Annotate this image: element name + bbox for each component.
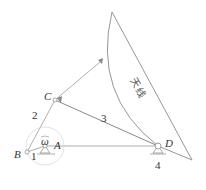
label-b: B xyxy=(14,148,21,160)
label-c: C xyxy=(44,90,52,102)
four-bar-antenna-diagram: C B A D ω 2 3 1 4 天 线 xyxy=(0,0,206,190)
label-link-3: 3 xyxy=(101,112,107,124)
label-a: A xyxy=(53,139,61,151)
joint-c xyxy=(53,98,57,102)
label-d: D xyxy=(164,137,173,149)
antenna-dish xyxy=(107,12,192,160)
joint-b xyxy=(25,150,29,154)
label-link-4: 4 xyxy=(155,159,161,171)
label-link-1: 1 xyxy=(31,150,37,162)
link-c-dish xyxy=(55,62,100,100)
label-link-2: 2 xyxy=(32,109,38,121)
label-omega: ω xyxy=(41,135,49,147)
